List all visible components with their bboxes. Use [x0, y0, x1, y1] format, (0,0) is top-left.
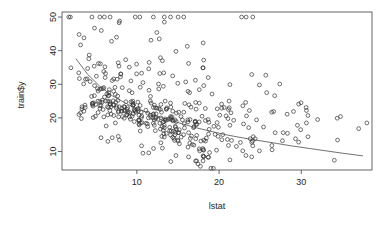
y-axis-tick-label: 10: [48, 147, 58, 157]
y-axis-tick-label: 40: [48, 46, 58, 56]
y-axis-tick-label: 50: [48, 12, 58, 22]
x-axis-title: lstat: [209, 201, 226, 211]
x-axis-tick-label: 10: [132, 177, 142, 187]
y-axis-tick-label: 30: [48, 79, 58, 89]
x-axis-tick-label: 20: [214, 177, 224, 187]
chart-figure: 102030 1020304050 lstat train$y: [0, 0, 385, 229]
scatter-plot-svg: 102030 1020304050 lstat train$y: [0, 0, 385, 229]
y-axis-tick-label: 20: [48, 113, 58, 123]
y-axis-title: train$y: [16, 81, 26, 109]
x-axis-tick-label: 30: [296, 177, 306, 187]
